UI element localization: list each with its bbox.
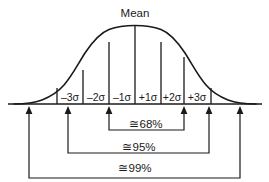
normal-distribution-figure: Mean –3σ –2σ –1σ +1σ +2σ +3σ ≅68% ≅95% ≅… [0, 0, 269, 182]
sigma-label-plus-3: +3σ [188, 91, 207, 103]
bracket-arrowheads [26, 106, 244, 114]
sigma-label-plus-2: +2σ [163, 91, 182, 103]
sigma-label-minus-2: –2σ [87, 91, 106, 103]
arrowhead-plus-1-sigma [181, 106, 188, 114]
sigma-label-plus-1: +1σ [139, 91, 158, 103]
percent-label-99: ≅99% [118, 162, 151, 174]
sigma-label-minus-1: –1σ [113, 91, 132, 103]
arrowhead-plus-3-sigma [237, 106, 244, 114]
percent-label-95: ≅95% [122, 141, 155, 153]
sigma-label-minus-3: –3σ [61, 91, 80, 103]
arrowhead-minus-1-sigma [106, 106, 113, 114]
bell-curve-svg: Mean –3σ –2σ –1σ +1σ +2σ +3σ ≅68% ≅95% ≅… [0, 0, 269, 182]
mean-label: Mean [121, 7, 150, 19]
arrowhead-plus-2-sigma [206, 106, 213, 114]
arrowhead-minus-3-sigma [26, 106, 33, 114]
arrowhead-minus-2-sigma [65, 106, 72, 114]
percent-label-68: ≅68% [129, 118, 162, 130]
